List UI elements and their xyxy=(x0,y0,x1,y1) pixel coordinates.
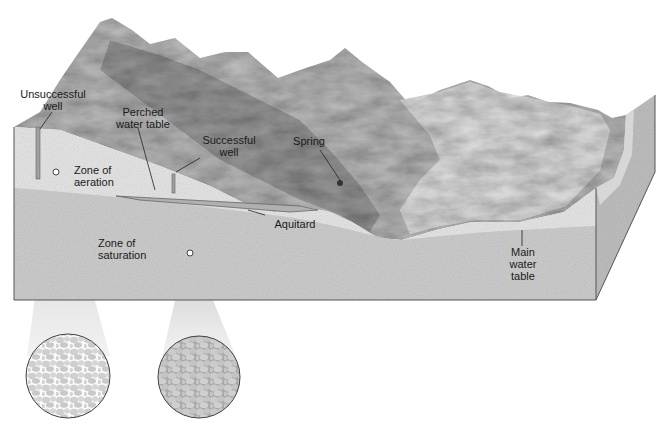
label-main-water-table: Main water table xyxy=(503,246,543,282)
label-aquitard: Aquitard xyxy=(268,218,322,230)
unsuccessful-well xyxy=(36,127,40,179)
magnifier-point-saturation xyxy=(187,250,193,256)
label-successful-well: Successful well xyxy=(196,134,262,158)
label-spring: Spring xyxy=(286,135,332,147)
label-zone-of-aeration: Zone of aeration xyxy=(74,164,124,188)
successful-well xyxy=(172,174,175,193)
diagram-artwork xyxy=(0,0,671,431)
magnifier-point-aeration xyxy=(53,169,59,175)
label-unsuccessful-well: Unsuccessful well xyxy=(18,88,88,112)
spring-marker xyxy=(337,180,343,186)
groundwater-diagram: Unsuccessful well Perched water table Su… xyxy=(0,0,671,431)
label-perched-water-table: Perched water table xyxy=(108,106,178,130)
label-zone-of-saturation: Zone of saturation xyxy=(98,237,154,261)
